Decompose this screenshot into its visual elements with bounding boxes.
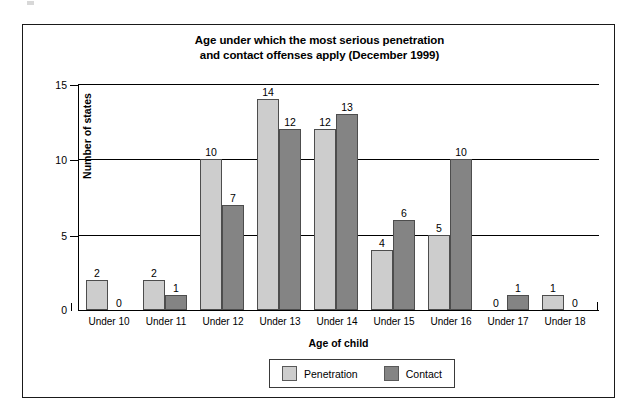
bar-penetration-under-15[interactable]: 4 <box>371 250 393 310</box>
chart-figure: Age under which the most serious penetra… <box>0 0 639 420</box>
bar-penetration-under-16[interactable]: 5 <box>428 235 450 310</box>
bar-value-penetration-under-12: 10 <box>205 146 217 158</box>
y-axis-zero-tick <box>71 303 72 311</box>
bar-contact-under-17[interactable]: 1 <box>507 295 529 310</box>
y-tick-label-15: 15 <box>55 79 67 91</box>
legend-item-contact[interactable]: Contact <box>384 366 442 381</box>
bar-contact-under-14[interactable]: 13 <box>336 114 358 310</box>
y-tick-label-5: 5 <box>61 230 67 242</box>
bar-value-contact-under-10: 0 <box>116 297 122 309</box>
y-tick-label-0: 0 <box>61 304 67 316</box>
scan-artifact <box>27 1 34 5</box>
bar-value-penetration-under-10: 2 <box>94 267 100 279</box>
x-axis-title: Age of child <box>78 337 599 349</box>
chart-title: Age under which the most serious penetra… <box>23 33 616 63</box>
bar-contact-under-11[interactable]: 1 <box>165 295 187 310</box>
y-tick-label-10: 10 <box>55 154 67 166</box>
bar-value-contact-under-14: 13 <box>341 101 353 113</box>
bar-value-penetration-under-18: 1 <box>550 282 556 294</box>
bar-value-contact-under-11: 1 <box>173 282 179 294</box>
bar-value-penetration-under-11: 2 <box>151 267 157 279</box>
bar-value-contact-under-15: 6 <box>401 207 407 219</box>
x-axis-line <box>78 310 599 311</box>
bar-value-penetration-under-16: 5 <box>436 222 442 234</box>
legend-label-contact: Contact <box>406 368 442 380</box>
bar-value-contact-under-12: 7 <box>230 192 236 204</box>
y-tick-10 <box>70 160 78 161</box>
bar-penetration-under-11[interactable]: 2 <box>143 280 165 310</box>
bar-value-contact-under-16: 10 <box>455 146 467 158</box>
plot-area: 15 10 5 0 2 0 <box>78 84 599 310</box>
gridline-15: 15 <box>78 84 599 85</box>
y-axis-line <box>78 84 79 310</box>
bar-penetration-under-10[interactable]: 2 <box>86 280 108 310</box>
bar-value-penetration-under-14: 12 <box>319 116 331 128</box>
chart-title-line-2: and contact offenses apply (December 199… <box>23 48 616 63</box>
legend-swatch-penetration <box>282 366 297 381</box>
x-tick-label-under-18: Under 18 <box>530 316 600 327</box>
chart-frame: Age under which the most serious penetra… <box>22 24 615 398</box>
bar-value-contact-under-17: 1 <box>515 282 521 294</box>
bar-value-contact-under-18: 0 <box>572 297 578 309</box>
bar-contact-under-12[interactable]: 7 <box>222 205 244 311</box>
bar-value-penetration-under-17: 0 <box>493 297 499 309</box>
legend-item-penetration[interactable]: Penetration <box>282 366 358 381</box>
bar-contact-under-16[interactable]: 10 <box>450 159 472 310</box>
legend-swatch-contact <box>384 366 399 381</box>
bar-contact-under-13[interactable]: 12 <box>279 129 301 310</box>
chart-legend: Penetration Contact <box>269 359 455 388</box>
y-tick-5 <box>70 236 78 237</box>
bar-value-contact-under-13: 12 <box>284 116 296 128</box>
bar-penetration-under-12[interactable]: 10 <box>200 159 222 310</box>
bar-contact-under-15[interactable]: 6 <box>393 220 415 310</box>
bar-penetration-under-13[interactable]: 14 <box>257 99 279 310</box>
legend-label-penetration: Penetration <box>304 368 358 380</box>
y-tick-15 <box>70 85 78 86</box>
chart-title-line-1: Age under which the most serious penetra… <box>23 33 616 48</box>
bar-penetration-under-18[interactable]: 1 <box>542 295 564 310</box>
bar-value-penetration-under-15: 4 <box>379 237 385 249</box>
bar-value-penetration-under-13: 14 <box>262 86 274 98</box>
x-axis-end-tick <box>597 302 598 311</box>
bar-penetration-under-14[interactable]: 12 <box>314 129 336 310</box>
